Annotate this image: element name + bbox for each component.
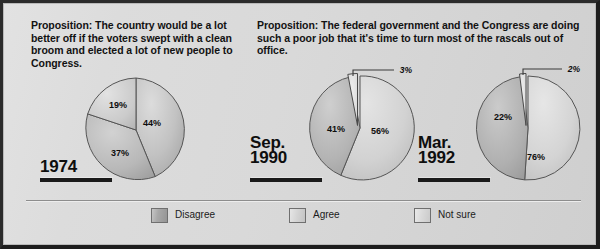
pie-1974-label-disagree: 44% (143, 118, 161, 128)
legend-swatch-disagree (151, 208, 168, 223)
pie-1992-date-line2: 1992 (418, 150, 455, 165)
pie-1990-date-label: Sep. 1990 (250, 135, 287, 165)
legend-label-disagree: Disagree (175, 209, 215, 220)
pie-1992-label-disagree: 76% (527, 152, 545, 162)
pie-1992-date-underline (418, 178, 490, 182)
pie-chart-1974: 44% 37% 19% (82, 76, 190, 184)
proposition-text-1: Proposition: The country would be a lot … (31, 19, 236, 69)
pie-1992-label-notsure: 2% (567, 64, 581, 74)
pie-1974-date-line1: 1974 (40, 159, 77, 174)
legend-label-notsure: Not sure (438, 209, 476, 220)
pie-1990-label-agree: 41% (327, 124, 345, 134)
legend: Disagree Agree Not sure (4, 208, 600, 232)
pie-1974-date-label: 1974 (40, 159, 77, 174)
chart-inner-panel: Proposition: The country would be a lot … (3, 3, 596, 245)
proposition-text-2: Proposition: The federal government and … (257, 19, 587, 57)
pie-1990-date-underline (250, 178, 322, 182)
pie-chart-mar-1992: 76% 22% 2% (470, 70, 586, 186)
legend-separator (26, 200, 581, 201)
pie-1974-date-underline (40, 178, 112, 182)
pie-1992-label-agree: 22% (494, 112, 512, 122)
legend-label-agree: Agree (313, 209, 340, 220)
legend-swatch-agree (289, 208, 306, 223)
chart-frame: Proposition: The country would be a lot … (0, 0, 600, 249)
pie-1974-label-notsure: 19% (109, 100, 127, 110)
pie-1990-label-disagree: 56% (371, 126, 389, 136)
pie-1990-label-notsure: 3% (400, 65, 413, 75)
legend-swatch-notsure (414, 208, 431, 223)
pie-chart-sep-1990: 56% 41% 3% (302, 70, 418, 186)
pie-1992-date-label: Mar. 1992 (418, 135, 455, 165)
pie-1974-label-agree: 37% (111, 148, 129, 158)
pie-1990-date-line2: 1990 (250, 150, 287, 165)
